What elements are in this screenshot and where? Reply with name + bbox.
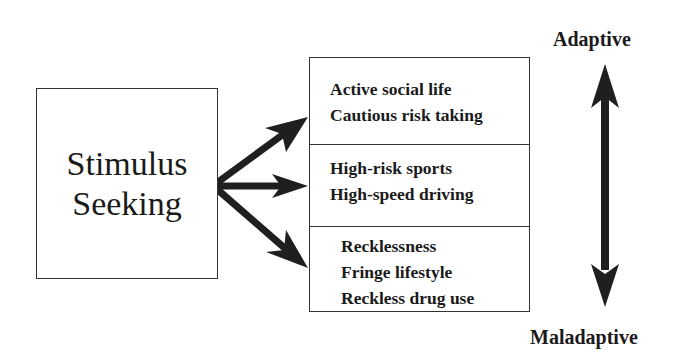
source-label-line-1: Stimulus — [67, 144, 188, 184]
arrow-to-maladaptive-box — [218, 190, 308, 268]
arrow-to-adaptive-box — [218, 117, 308, 182]
stimulus-seeking-box: Stimulus Seeking — [36, 88, 218, 279]
adaptive-outcomes-box: Active social life Cautious risk taking — [309, 57, 530, 145]
outcome-item: Recklessness — [341, 233, 529, 259]
outcome-item: Fringe lifestyle — [341, 259, 529, 285]
outcome-item: Reckless drug use — [341, 285, 529, 311]
maladaptive-label: Maladaptive — [530, 326, 638, 349]
maladaptive-outcomes-box: Recklessness Fringe lifestyle Reckless d… — [309, 226, 530, 312]
intermediate-outcomes-box: High-risk sports High-speed driving — [309, 144, 530, 227]
adaptive-label: Adaptive — [553, 28, 631, 51]
outcome-item: High-speed driving — [330, 181, 529, 207]
outcome-item: Active social life — [330, 76, 529, 102]
source-label-line-2: Seeking — [72, 184, 182, 224]
arrow-to-middle-box — [218, 174, 308, 198]
outcome-item: Cautious risk taking — [330, 102, 529, 128]
outcome-item: High-risk sports — [330, 155, 529, 181]
adaptive-maladaptive-scale-arrow — [591, 64, 619, 307]
